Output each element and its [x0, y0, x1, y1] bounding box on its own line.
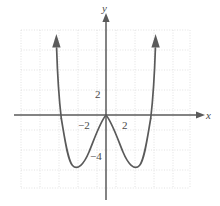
x-axis-label: x: [206, 110, 211, 121]
x-axis-tick-label-neg2: −2: [78, 120, 90, 131]
axis-y: [102, 13, 109, 200]
arrow-up-icon: [102, 13, 109, 22]
graph-canvas: [0, 0, 220, 206]
axis-x: [14, 111, 205, 118]
curve-right-arrow-icon: [151, 34, 159, 48]
x-axis-tick-label-2: 2: [122, 120, 128, 131]
y-axis-tick-label-neg4: −4: [90, 151, 102, 162]
y-axis-label: y: [102, 3, 107, 14]
y-axis-tick-label-2: 2: [95, 89, 101, 100]
arrow-right-icon: [196, 111, 205, 118]
graph-figure: 2 −4 −2 2 y x: [0, 0, 220, 206]
